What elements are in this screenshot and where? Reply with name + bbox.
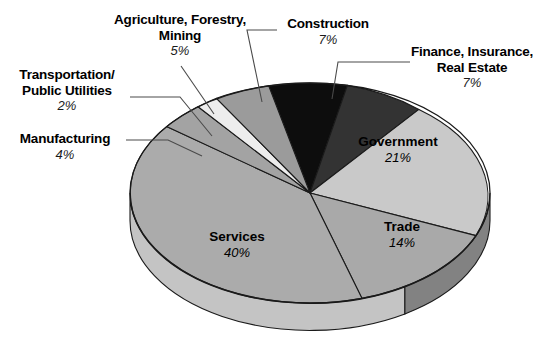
label-services-percent: 40% — [182, 245, 292, 260]
label-manufacturing-percent: 4% — [6, 147, 124, 162]
pie-chart-figure: Agriculture, Forestry, Mining 5% Constru… — [0, 0, 556, 358]
label-agriculture-line2: Mining — [74, 28, 286, 44]
label-construction-percent: 7% — [262, 32, 394, 47]
label-government-percent: 21% — [338, 150, 458, 165]
label-transportation-line2: Public Utilities — [6, 83, 128, 99]
label-finance-line1: Finance, Insurance, — [396, 44, 548, 60]
label-agriculture-line1: Agriculture, Forestry, — [74, 12, 286, 28]
label-manufacturing: Manufacturing 4% — [6, 131, 124, 162]
label-trade-name: Trade — [362, 219, 442, 235]
label-transportation: Transportation/ Public Utilities 2% — [6, 67, 128, 113]
label-finance-percent: 7% — [396, 75, 548, 90]
label-trade-percent: 14% — [362, 235, 442, 250]
label-government-name: Government — [338, 134, 458, 150]
label-transportation-line1: Transportation/ — [6, 67, 128, 83]
pie-top-slices — [130, 83, 488, 303]
label-services: Services 40% — [182, 229, 292, 260]
label-finance: Finance, Insurance, Real Estate 7% — [396, 44, 548, 90]
label-government: Government 21% — [338, 134, 458, 165]
label-trade: Trade 14% — [362, 219, 442, 250]
label-manufacturing-line1: Manufacturing — [6, 131, 124, 147]
label-construction: Construction 7% — [262, 16, 394, 47]
label-finance-line2: Real Estate — [396, 60, 548, 76]
label-construction-line1: Construction — [262, 16, 394, 32]
label-agriculture-percent: 5% — [74, 43, 286, 58]
label-services-name: Services — [182, 229, 292, 245]
label-transportation-percent: 2% — [6, 98, 128, 113]
label-agriculture: Agriculture, Forestry, Mining 5% — [74, 12, 286, 58]
